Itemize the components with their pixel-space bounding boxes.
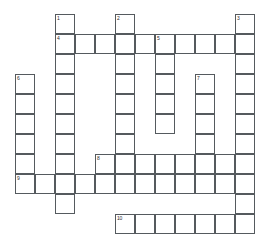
- crossword-cell[interactable]: 1: [55, 14, 75, 34]
- crossword-cell[interactable]: 4: [55, 34, 75, 54]
- crossword-cell[interactable]: [195, 34, 215, 54]
- crossword-cell[interactable]: [55, 94, 75, 114]
- crossword-cell[interactable]: [15, 94, 35, 114]
- crossword-cell[interactable]: [135, 174, 155, 194]
- crossword-cell[interactable]: [235, 94, 255, 114]
- crossword-cell[interactable]: [235, 74, 255, 94]
- crossword-cell[interactable]: [235, 214, 255, 234]
- crossword-cell[interactable]: [195, 94, 215, 114]
- crossword-cell[interactable]: [175, 34, 195, 54]
- clue-number: 10: [117, 215, 122, 221]
- crossword-cell[interactable]: 8: [95, 154, 115, 174]
- crossword-cell[interactable]: [215, 174, 235, 194]
- crossword-cell[interactable]: 9: [15, 174, 35, 194]
- crossword-cell[interactable]: [135, 34, 155, 54]
- crossword-cell[interactable]: [55, 114, 75, 134]
- crossword-cell[interactable]: 5: [155, 34, 175, 54]
- crossword-cell[interactable]: [235, 34, 255, 54]
- crossword-cell[interactable]: [155, 154, 175, 174]
- crossword-cell[interactable]: [155, 74, 175, 94]
- crossword-cell[interactable]: [15, 114, 35, 134]
- crossword-cell[interactable]: [75, 174, 95, 194]
- crossword-cell[interactable]: [115, 54, 135, 74]
- crossword-cell[interactable]: [135, 154, 155, 174]
- crossword-cell[interactable]: [195, 174, 215, 194]
- clue-number: 3: [237, 15, 240, 21]
- crossword-cell[interactable]: [135, 214, 155, 234]
- crossword-cell[interactable]: 7: [195, 74, 215, 94]
- crossword-cell[interactable]: [235, 154, 255, 174]
- crossword-cell[interactable]: [55, 134, 75, 154]
- crossword-cell[interactable]: [115, 134, 135, 154]
- crossword-cell[interactable]: [215, 154, 235, 174]
- crossword-cell[interactable]: [115, 174, 135, 194]
- crossword-cell[interactable]: [235, 114, 255, 134]
- crossword-cell[interactable]: [195, 114, 215, 134]
- crossword-cell[interactable]: 6: [15, 74, 35, 94]
- clue-number: 5: [157, 35, 160, 41]
- crossword-cell[interactable]: [235, 174, 255, 194]
- crossword-cell[interactable]: [195, 154, 215, 174]
- crossword-cell[interactable]: [55, 194, 75, 214]
- crossword-cell[interactable]: [175, 174, 195, 194]
- crossword-cell[interactable]: [195, 214, 215, 234]
- clue-number: 2: [117, 15, 120, 21]
- crossword-cell[interactable]: [55, 174, 75, 194]
- crossword-cell[interactable]: [235, 134, 255, 154]
- crossword-cell[interactable]: [115, 114, 135, 134]
- crossword-cell[interactable]: [155, 54, 175, 74]
- crossword-cell[interactable]: [155, 174, 175, 194]
- crossword-cell[interactable]: [115, 74, 135, 94]
- clue-number: 6: [17, 75, 20, 81]
- crossword-cell[interactable]: [15, 134, 35, 154]
- crossword-cell[interactable]: 2: [115, 14, 135, 34]
- crossword-cell[interactable]: [175, 214, 195, 234]
- clue-number: 7: [197, 75, 200, 81]
- crossword-cell[interactable]: [155, 214, 175, 234]
- crossword-cell[interactable]: [195, 134, 215, 154]
- crossword-cell[interactable]: [155, 114, 175, 134]
- crossword-cell[interactable]: [55, 54, 75, 74]
- crossword-cell[interactable]: [215, 214, 235, 234]
- crossword-cell[interactable]: [15, 154, 35, 174]
- crossword-cell[interactable]: [215, 34, 235, 54]
- crossword-cell[interactable]: [115, 34, 135, 54]
- crossword-cell[interactable]: [115, 94, 135, 114]
- crossword-cell[interactable]: 10: [115, 214, 135, 234]
- crossword-cell[interactable]: 3: [235, 14, 255, 34]
- crossword-cell[interactable]: [115, 154, 135, 174]
- clue-number: 8: [97, 155, 100, 161]
- crossword-cell[interactable]: [235, 194, 255, 214]
- crossword-cell[interactable]: [35, 174, 55, 194]
- clue-number: 4: [57, 35, 60, 41]
- crossword-cell[interactable]: [155, 94, 175, 114]
- crossword-puzzle[interactable]: 12345678910: [0, 0, 269, 250]
- crossword-cell[interactable]: [175, 154, 195, 174]
- crossword-cell[interactable]: [55, 154, 75, 174]
- crossword-cell[interactable]: [55, 74, 75, 94]
- clue-number: 9: [17, 175, 20, 181]
- clue-number: 1: [57, 15, 60, 21]
- crossword-cell[interactable]: [95, 34, 115, 54]
- crossword-cell[interactable]: [75, 34, 95, 54]
- crossword-cell[interactable]: [235, 54, 255, 74]
- crossword-cell[interactable]: [95, 174, 115, 194]
